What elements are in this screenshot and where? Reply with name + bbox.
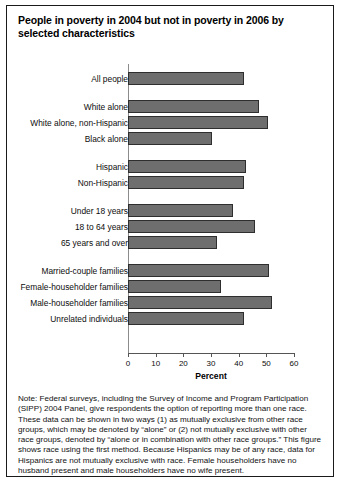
bar	[128, 72, 244, 85]
x-axis-tick-label: 0	[126, 359, 130, 368]
x-axis-title: Percent	[128, 371, 294, 381]
bar-chart: All peopleWhite aloneWhite alone, non-Hi…	[7, 64, 333, 364]
x-axis-tick-label: 60	[290, 359, 299, 368]
x-axis-tick-label: 20	[179, 359, 188, 368]
bar-track	[128, 296, 328, 310]
page-edge-cut-text	[46, 479, 306, 486]
bar-category-label: Black alone	[85, 133, 128, 146]
bar-row: White alone, non-Hispanic	[7, 116, 333, 132]
figure-note: Note: Federal surveys, including the Sur…	[18, 394, 323, 476]
x-axis-tick-label: 10	[151, 359, 160, 368]
bar-category-label: Married-couple families	[41, 265, 128, 278]
bar-track	[128, 132, 328, 146]
x-axis-tick	[294, 353, 295, 357]
bar-row: Male-householder families	[7, 296, 333, 312]
bar-category-label: Hispanic	[96, 161, 128, 174]
bar-category-label: Male-householder families	[30, 297, 128, 310]
bar-row: Hispanic	[7, 160, 333, 176]
bar-row: 65 years and over	[7, 236, 333, 252]
bar-rows: All peopleWhite aloneWhite alone, non-Hi…	[7, 72, 333, 328]
bar	[128, 264, 269, 277]
bar	[128, 312, 244, 325]
bar-track	[128, 160, 328, 174]
bar-row: Non-Hispanic	[7, 176, 333, 192]
x-axis-tick	[183, 353, 184, 357]
bar-track	[128, 280, 328, 294]
x-axis-tick-label: 30	[207, 359, 216, 368]
bar-category-label: White alone	[84, 101, 128, 114]
bar-category-label: White alone, non-Hispanic	[30, 117, 128, 130]
bar-row: 18 to 64 years	[7, 220, 333, 236]
bar-category-label: Unrelated individuals	[50, 313, 128, 326]
bar	[128, 100, 259, 113]
x-axis-tick	[156, 353, 157, 357]
bar-row: Married-couple families	[7, 264, 333, 280]
x-axis-tick	[128, 353, 129, 357]
bar-track	[128, 176, 328, 190]
bar-category-label: Female-householder families	[20, 281, 128, 294]
bar-track	[128, 116, 328, 130]
bar-category-label: 65 years and over	[61, 237, 128, 250]
bar-row: White alone	[7, 100, 333, 116]
bar-track	[128, 100, 328, 114]
bar	[128, 116, 268, 129]
bar-category-label: Non-Hispanic	[78, 177, 128, 190]
bar-row: All people	[7, 72, 333, 88]
bar-row: Unrelated individuals	[7, 312, 333, 328]
bar	[128, 280, 221, 293]
bar	[128, 220, 255, 233]
bar-category-label: All people	[91, 73, 128, 86]
bar	[128, 176, 244, 189]
x-axis-tick	[266, 353, 267, 357]
x-axis-tick-label: 50	[262, 359, 271, 368]
bar-track	[128, 264, 328, 278]
bar	[128, 204, 233, 217]
bar-track	[128, 312, 328, 326]
bar-track	[128, 72, 328, 86]
bar	[128, 132, 212, 145]
bar-track	[128, 236, 328, 250]
bar-row: Female-householder families	[7, 280, 333, 296]
bar-row: Under 18 years	[7, 204, 333, 220]
bar	[128, 160, 246, 173]
x-axis-tick	[239, 353, 240, 357]
bar	[128, 236, 217, 249]
bar-category-label: Under 18 years	[71, 205, 128, 218]
figure-title: People in poverty in 2004 but not in pov…	[18, 14, 318, 40]
bar-track	[128, 204, 328, 218]
bar-track	[128, 220, 328, 234]
x-axis-tick	[211, 353, 212, 357]
x-axis-tick-label: 40	[234, 359, 243, 368]
bar	[128, 296, 272, 309]
bar-category-label: 18 to 64 years	[75, 221, 128, 234]
bar-row: Black alone	[7, 132, 333, 148]
figure-container: People in poverty in 2004 but not in pov…	[6, 5, 334, 477]
